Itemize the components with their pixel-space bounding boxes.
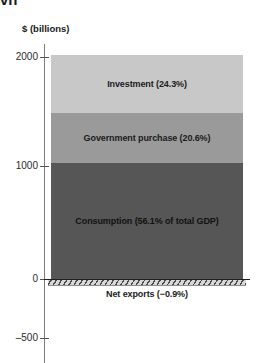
bar-segment-investment[interactable]: Investment (24.3%) xyxy=(51,55,243,113)
y-tick-label-2000: 2000 xyxy=(16,52,38,62)
stacked-bar: Investment (24.3%) Government purchase (… xyxy=(51,55,243,279)
bar-segment-net-exports-label: Net exports (−0.9%) xyxy=(51,289,243,299)
net-exports-baseline xyxy=(48,285,246,286)
y-tick-label-minus500: –500 xyxy=(16,333,38,343)
y-axis-title: $ (billions) xyxy=(22,23,70,34)
bar-segment-government-purchase-label: Government purchase (20.6%) xyxy=(84,133,211,143)
y-tick-label-1000: 1000 xyxy=(16,161,38,171)
y-axis-line xyxy=(44,44,45,363)
y-tick-mark-1000 xyxy=(40,166,49,167)
bar-segment-government-purchase[interactable]: Government purchase (20.6%) xyxy=(51,113,243,163)
y-tick-label-0: 0 xyxy=(32,274,38,284)
y-tick-mark-minus500 xyxy=(40,338,49,339)
bar-segment-consumption[interactable]: Consumption (56.1% of total GDP) xyxy=(51,163,243,279)
y-tick-mark-2000 xyxy=(40,57,49,58)
bar-segment-investment-label: Investment (24.3%) xyxy=(107,79,187,89)
cropped-title-fragment: vn xyxy=(0,0,60,9)
bar-segment-consumption-label: Consumption (56.1% of total GDP) xyxy=(75,216,218,226)
